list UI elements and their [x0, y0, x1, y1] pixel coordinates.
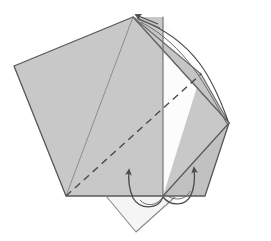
paper-regions — [14, 17, 229, 232]
origami-diagram-root — [0, 0, 271, 241]
left-gray-panel — [14, 17, 163, 196]
origami-diagram-svg — [0, 0, 271, 241]
